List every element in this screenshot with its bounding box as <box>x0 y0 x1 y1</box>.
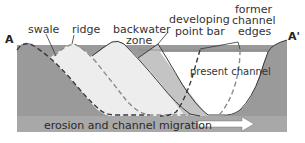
bottom-caption: erosion and channel migration <box>44 119 212 132</box>
label-point-bar: point bar <box>175 26 225 37</box>
label-swale: swale <box>28 24 59 35</box>
label-developing: developing <box>169 14 230 25</box>
ridge-leader <box>72 35 74 44</box>
label-present-channel: present channel <box>190 66 271 77</box>
label-edges: edges <box>238 26 271 37</box>
label-zone: zone <box>126 35 152 46</box>
label-ridge: ridge <box>72 24 100 35</box>
river-cross-section-diagram: A A' swale ridge backwater zone developi… <box>0 0 305 143</box>
label-a-end: A' <box>288 30 300 43</box>
label-a-start: A <box>5 33 14 46</box>
